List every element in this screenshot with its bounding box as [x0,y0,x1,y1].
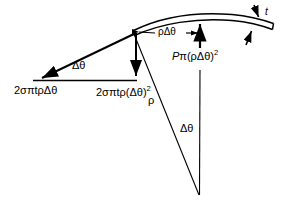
shell-band [134,14,274,36]
hoop-force-label: 2σπtρΔθ [14,85,57,96]
resultant-force-vector [42,33,136,78]
thickness-arrow-lower [246,31,252,45]
thickness-label: t [265,7,268,17]
radius-line-vertical [200,70,201,195]
force-diagram: 2σπtρΔθ 2σπtρ(Δθ)2 Δθ ρΔθ Pπ(ρΔθ)2 t ρ Δ… [0,0,281,206]
pressure-force-rest: π(ρΔθ) [179,50,214,62]
triangle-angle-label: Δθ [72,60,85,71]
hoop-force-component-label: 2σπtρ(Δθ)2 [96,85,151,98]
force-triangle [33,33,137,81]
arc-length-label: ρΔθ [158,27,176,37]
sector-angle-label: Δθ [180,123,193,134]
radius-label: ρ [148,95,154,106]
shell-right-cap [273,24,274,30]
pressure-force-label: Pπ(ρΔθ)2 [172,49,218,62]
diagram-canvas [0,0,281,206]
thickness-arrow-upper [254,5,259,17]
hoop-force-component-text: 2σπtρ(Δθ) [96,86,147,98]
pressure-force-exponent: 2 [214,48,218,57]
hoop-force-component-exponent: 2 [147,84,151,93]
